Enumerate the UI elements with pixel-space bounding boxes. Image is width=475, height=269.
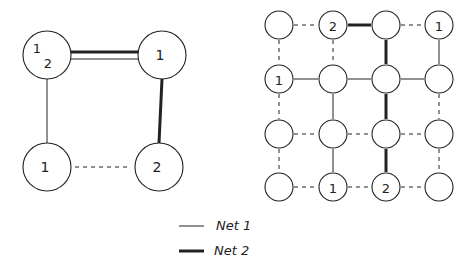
node-circle: [372, 65, 400, 93]
legend-label-net2: Net 2: [214, 243, 249, 258]
grid-node: [372, 65, 400, 93]
node-circle: [425, 65, 453, 93]
left-edge-net2: [159, 79, 162, 143]
grid-node: [425, 173, 453, 201]
node-circle: [319, 120, 347, 148]
node-circle: [319, 65, 347, 93]
node-label: 1: [435, 19, 443, 34]
legend: Net 1 Net 2: [179, 218, 251, 258]
node-circle: [265, 173, 293, 201]
grid-node: [265, 120, 293, 148]
routing-diagram: 12112 21112 Net 1 Net 2: [0, 0, 475, 269]
node-label: 1: [33, 41, 41, 56]
left-node: 12: [23, 31, 71, 79]
node-circle: [265, 120, 293, 148]
grid-node: [319, 65, 347, 93]
node-label: 1: [41, 159, 50, 175]
node-label: 2: [44, 56, 52, 71]
node-label: 2: [329, 19, 337, 34]
grid-node: 2: [372, 173, 400, 201]
left-node: 2: [135, 143, 183, 191]
node-circle: [265, 11, 293, 39]
node-circle: [425, 173, 453, 201]
grid-node: [425, 65, 453, 93]
grid-node: 1: [425, 11, 453, 39]
grid-node: 1: [319, 173, 347, 201]
grid-node: [372, 120, 400, 148]
node-circle: [425, 120, 453, 148]
node-label: 1: [329, 181, 337, 196]
grid-node: [265, 11, 293, 39]
left-node: 1: [23, 143, 71, 191]
grid-node: [425, 120, 453, 148]
node-label: 2: [382, 181, 390, 196]
right-grid: 21112: [265, 11, 453, 201]
grid-node: 1: [265, 65, 293, 93]
left-node: 1: [138, 31, 186, 79]
grid-node: 2: [319, 11, 347, 39]
node-label: 1: [156, 47, 165, 63]
grid-node: [265, 173, 293, 201]
grid-node: [372, 11, 400, 39]
node-label: 2: [153, 159, 162, 175]
node-circle: [372, 120, 400, 148]
grid-node: [319, 120, 347, 148]
node-label: 1: [275, 73, 283, 88]
left-graph: 12112: [23, 31, 186, 191]
node-circle: [372, 11, 400, 39]
legend-label-net1: Net 1: [216, 218, 251, 233]
